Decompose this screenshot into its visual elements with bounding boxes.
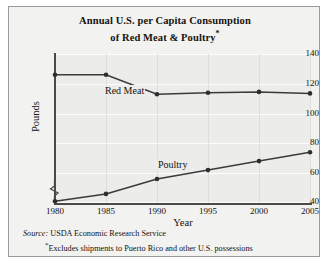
series-label-poultry: Poultry — [157, 159, 188, 170]
data-point — [257, 159, 262, 164]
footnote-text: Excludes shipments to Puerto Rico and ot… — [49, 243, 253, 252]
data-point — [257, 90, 262, 95]
data-point — [104, 73, 109, 78]
source-label: Source: — [23, 229, 48, 238]
series-label-red-meat: Red Meat — [104, 85, 145, 96]
data-point — [155, 177, 160, 182]
data-point — [155, 92, 160, 97]
data-point — [206, 168, 211, 173]
series-poultry — [53, 150, 313, 204]
data-point — [53, 73, 58, 78]
data-point — [308, 150, 313, 155]
source-text: USDA Economic Research Service — [50, 229, 166, 238]
data-point — [308, 91, 313, 96]
data-point — [104, 192, 109, 197]
series-layer — [9, 7, 321, 258]
chart-figure: Annual U.S. per Capita Consumption of Re… — [8, 6, 320, 257]
data-point — [53, 199, 58, 204]
series-red-meat — [53, 73, 313, 97]
footnote: *Excludes shipments to Puerto Rico and o… — [23, 240, 315, 254]
source-note: Source: USDA Economic Research Service *… — [23, 229, 315, 254]
data-point — [206, 90, 211, 95]
